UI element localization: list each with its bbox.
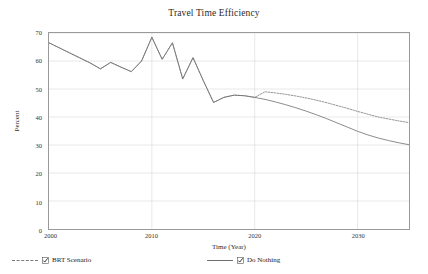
plot-canvas xyxy=(49,33,409,229)
checkbox-checked-icon[interactable] xyxy=(237,257,244,264)
x-tick-label: 2000 xyxy=(44,232,57,239)
y-tick-label: 50 xyxy=(36,85,43,92)
grid-lines xyxy=(49,33,409,229)
series-lines xyxy=(49,37,409,145)
checkbox-checked-icon[interactable] xyxy=(42,257,49,264)
legend-item-do-nothing[interactable]: Do Nothing xyxy=(207,254,280,266)
x-tick-label: 2030 xyxy=(352,232,365,239)
travel-time-efficiency-chart: Travel Time Efficiency Percent 010203040… xyxy=(0,0,428,274)
x-tick-label: 2020 xyxy=(248,232,261,239)
series-line-brt-scenario xyxy=(49,37,409,122)
legend-line-sample xyxy=(207,257,233,264)
chart-legend: BRT ScenarioDo Nothing xyxy=(0,254,428,268)
y-tick-label: 20 xyxy=(36,170,43,177)
legend-label: BRT Scenario xyxy=(52,256,91,264)
y-tick-label: 30 xyxy=(36,142,43,149)
y-tick-label: 10 xyxy=(36,198,43,205)
plot-area xyxy=(48,32,410,230)
y-tick-label: 0 xyxy=(39,227,42,234)
legend-label: Do Nothing xyxy=(247,256,280,264)
y-tick-label: 60 xyxy=(36,57,43,64)
x-tick-label: 2010 xyxy=(145,232,158,239)
chart-title: Travel Time Efficiency xyxy=(0,8,428,18)
y-tick-label: 70 xyxy=(36,29,43,36)
legend-item-brt-scenario[interactable]: BRT Scenario xyxy=(12,254,91,266)
legend-line-sample xyxy=(12,257,38,264)
y-tick-label: 40 xyxy=(36,113,43,120)
series-line-do-nothing xyxy=(49,37,409,145)
x-axis-title: Time (Year) xyxy=(48,243,410,251)
y-axis-tick-labels: 010203040506070 xyxy=(0,32,46,230)
